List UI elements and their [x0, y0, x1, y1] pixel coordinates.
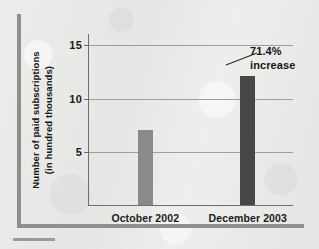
y-axis-title-line-2: (in hundred thousands) — [43, 66, 54, 174]
y-axis-tick-mark — [84, 152, 89, 153]
annotation-callout: 71.4% increase — [250, 44, 295, 72]
annotation-word: increase — [250, 58, 295, 72]
y-axis-tick-label: 10 — [69, 93, 82, 105]
frame-left-rule — [17, 14, 21, 228]
y-axis-tick-label: 5 — [76, 146, 82, 158]
y-axis-title-line-1: Number of paid subscriptions — [30, 51, 41, 188]
chart-figure: Number of paid subscriptions (in hundred… — [0, 0, 319, 249]
bar-1 — [138, 130, 153, 205]
bar-2 — [240, 76, 255, 205]
footer-dash-rule — [13, 238, 55, 241]
gridline — [88, 152, 293, 153]
y-axis-line — [88, 34, 89, 206]
x-axis-category-label: December 2003 — [209, 212, 287, 224]
y-axis-tick-mark — [84, 45, 89, 46]
x-axis-line — [88, 205, 293, 206]
y-axis-title: Number of paid subscriptions (in hundred… — [30, 0, 70, 34]
y-axis-tick-mark — [84, 99, 89, 100]
annotation-percent: 71.4% — [250, 44, 295, 58]
y-axis-tick-label: 15 — [69, 39, 82, 51]
frame-bottom-rule — [17, 224, 304, 228]
gridline — [88, 99, 293, 100]
x-axis-category-label: October 2002 — [111, 212, 179, 224]
